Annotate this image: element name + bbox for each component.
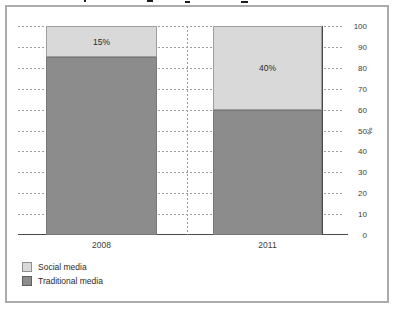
y-tick-label: 10 — [337, 210, 367, 219]
legend-item-social-media: Social media — [22, 260, 103, 274]
y-tick-label: 50 — [337, 127, 367, 136]
bar-segment-traditional-media — [213, 110, 322, 235]
y-tick-label: 20 — [337, 189, 367, 198]
legend-item-traditional-media: Traditional media — [22, 274, 103, 288]
y-tick-label: 40 — [337, 147, 367, 156]
category-separator — [187, 26, 188, 235]
y-tick-label: 100 — [337, 22, 367, 31]
y-tick-label: 90 — [337, 43, 367, 52]
y-tick-label: 30 — [337, 168, 367, 177]
legend-label: Traditional media — [38, 276, 103, 287]
y-tick-label: 80 — [337, 64, 367, 73]
bar-segment-traditional-media — [46, 57, 157, 235]
chart-legend: Social media Traditional media — [22, 260, 103, 288]
y-axis-title: % — [364, 124, 374, 138]
x-tick-label: 2008 — [82, 240, 122, 250]
y-axis-line — [322, 26, 323, 235]
bar-value-label: 40% — [213, 63, 322, 73]
bar-value-label: 15% — [46, 37, 157, 47]
social-media-swatch-icon — [22, 262, 32, 272]
y-tick-label: 60 — [337, 106, 367, 115]
y-tick-label: 70 — [337, 85, 367, 94]
legend-label: Social media — [38, 262, 87, 273]
traditional-media-swatch-icon — [22, 276, 32, 286]
x-tick-label: 2011 — [248, 240, 288, 250]
stacked-bar-chart: 1009080706050403020100%15%200840%2011 So… — [0, 0, 394, 309]
y-tick-label: 0 — [337, 231, 367, 240]
